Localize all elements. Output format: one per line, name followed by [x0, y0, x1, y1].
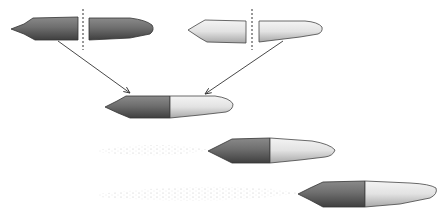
arrow-left: [58, 41, 130, 93]
donor-dark-posterior: [89, 18, 153, 40]
donor-dark-anterior: [11, 17, 78, 40]
donor-light-specimen: [188, 9, 322, 50]
trail-2: [98, 187, 300, 201]
diagram-svg: [0, 0, 443, 221]
donor-light-posterior: [259, 21, 322, 42]
graft-posterior-light: [170, 96, 233, 118]
moving-graft-2-posterior: [365, 181, 436, 207]
graft-anterior-dark: [105, 96, 170, 118]
moving-graft-1: [98, 138, 335, 163]
donor-dark-specimen: [11, 9, 153, 50]
moving-graft-2-anterior: [298, 181, 365, 207]
graft-specimen: [105, 96, 233, 118]
graft-diagram: [0, 0, 443, 221]
moving-graft-2: [98, 181, 436, 207]
donor-light-anterior: [188, 20, 246, 43]
moving-graft-1-posterior: [270, 138, 335, 163]
trail-1: [98, 145, 210, 156]
arrow-right: [205, 41, 283, 94]
moving-graft-1-anterior: [208, 138, 270, 163]
